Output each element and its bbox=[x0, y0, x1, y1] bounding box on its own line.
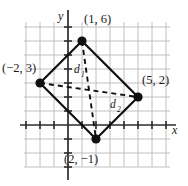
diagonal-labels: d 1 d 2 bbox=[74, 63, 121, 114]
vertex-point bbox=[91, 134, 100, 143]
point-label-right: (5, 2) bbox=[142, 73, 169, 87]
point-label-left: (−2, 3) bbox=[2, 61, 36, 75]
x-axis-label: x bbox=[171, 123, 178, 137]
d2-subscript: 2 bbox=[117, 105, 121, 114]
y-axis-label: y bbox=[57, 9, 64, 23]
coordinate-plane-figure: (1, 6) (−2, 3) (5, 2) (2, −1) d 1 d 2 y … bbox=[0, 0, 188, 186]
d1-label: d bbox=[74, 63, 80, 75]
graph-svg: (1, 6) (−2, 3) (5, 2) (2, −1) d 1 d 2 y … bbox=[0, 0, 188, 186]
point-label-top: (1, 6) bbox=[84, 12, 111, 26]
point-label-bottom: (2, −1) bbox=[64, 152, 98, 166]
vertex-point bbox=[77, 36, 86, 45]
d2-label: d bbox=[110, 98, 116, 110]
vertex-point bbox=[133, 92, 142, 101]
d1-subscript: 1 bbox=[81, 70, 85, 79]
grid-lines bbox=[24, 22, 170, 167]
vertex-point bbox=[35, 78, 44, 87]
